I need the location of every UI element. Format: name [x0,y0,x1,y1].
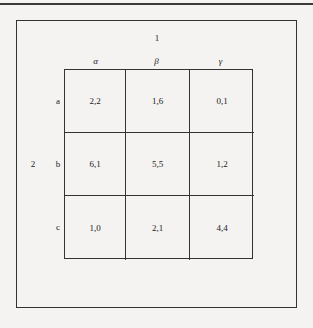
col-header-gamma: γ [189,56,252,66]
payoff-cell-c-alpha: 1,0 [65,196,126,260]
payoff-matrix: 2,2 1,6 0,1 6,1 5,5 1,2 1,0 2,1 4,4 [64,69,253,259]
payoff-cell-a-beta: 1,6 [126,70,190,133]
payoff-cell-a-alpha: 2,2 [65,70,126,133]
row-header-a: a [52,96,64,106]
col-header-beta: β [125,56,188,66]
column-player-label: 1 [151,33,163,43]
payoff-cell-b-alpha: 6,1 [65,133,126,196]
col-header-alpha: α [64,56,127,66]
page-top-rule [0,3,313,5]
row-player-label: 2 [27,159,39,169]
row-header-c: c [52,222,64,232]
row-header-b: b [52,159,64,169]
payoff-cell-b-beta: 5,5 [126,133,190,196]
payoff-cell-c-beta: 2,1 [126,196,190,260]
payoff-cell-b-gamma: 1,2 [190,133,254,196]
payoff-cell-a-gamma: 0,1 [190,70,254,133]
payoff-cell-c-gamma: 4,4 [190,196,254,260]
